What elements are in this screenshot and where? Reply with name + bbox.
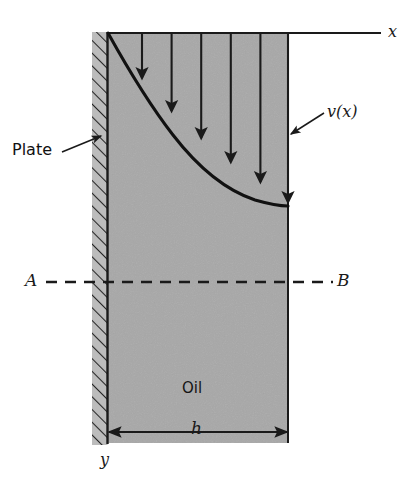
velocity-label-leader-line bbox=[291, 113, 324, 134]
section-label-a: A bbox=[25, 272, 37, 289]
velocity-function-label: v(x) bbox=[327, 104, 358, 120]
dimension-label-h: h bbox=[191, 420, 202, 437]
oil-plate-velocity-diagram bbox=[0, 0, 418, 485]
plate-hatching bbox=[92, 32, 108, 445]
axis-label-y: y bbox=[100, 452, 109, 468]
plate-label: Plate bbox=[12, 142, 52, 158]
axis-label-x: x bbox=[388, 24, 397, 40]
figure-container: x y A B h v(x) Plate Oil bbox=[0, 0, 418, 485]
oil-label: Oil bbox=[182, 381, 202, 396]
section-label-b: B bbox=[337, 272, 350, 289]
